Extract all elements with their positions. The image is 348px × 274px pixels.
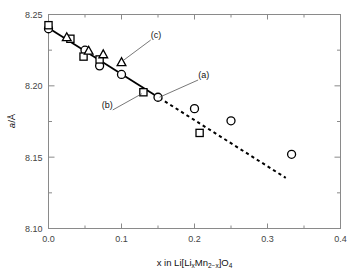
scatter-plot: 0.00.10.20.30.4 8.108.158.208.25 (a)(b)(…: [0, 0, 348, 274]
data-point-triangle: [117, 58, 126, 66]
data-point-circle: [118, 70, 126, 78]
data-point-circle: [191, 105, 199, 113]
plot-frame: [49, 15, 341, 229]
x-axis-ticks: [49, 15, 341, 229]
x-axis-title: x in Li[LixMn2−x]O4: [157, 257, 233, 269]
x-axis-tick-labels: 0.00.10.20.30.4: [42, 234, 347, 244]
annotation-label: (a): [198, 70, 209, 80]
annotation-leader-line: [159, 80, 198, 97]
x-axis-title-text: x in Li[LixMn2−x]O4: [157, 257, 233, 269]
y-tick-label: 8.20: [25, 81, 43, 91]
y-tick-label: 8.10: [25, 224, 43, 234]
x-tick-label: 0.4: [334, 234, 347, 244]
data-point-square: [45, 22, 52, 29]
data-point-square: [140, 89, 147, 96]
y-axis-title: a/Å: [6, 113, 17, 128]
data-markers: [45, 22, 296, 159]
x-tick-label: 0.0: [42, 234, 55, 244]
data-point-triangle: [99, 50, 108, 58]
annotation-leader-line: [124, 40, 151, 60]
y-axis-ticks: [49, 15, 341, 229]
y-axis-tick-labels: 8.108.158.208.25: [25, 10, 43, 234]
x-tick-label: 0.3: [261, 234, 274, 244]
data-point-circle: [227, 117, 235, 125]
data-point-square: [196, 129, 203, 136]
x-tick-label: 0.1: [115, 234, 128, 244]
figure-container: 0.00.10.20.30.4 8.108.158.208.25 (a)(b)(…: [0, 0, 348, 274]
y-tick-label: 8.15: [25, 153, 43, 163]
annotation-label: (c): [151, 30, 162, 40]
data-point-circle: [288, 150, 296, 158]
annotation-label: (b): [102, 100, 113, 110]
axes-frame: [49, 15, 341, 229]
y-axis-title-text: a/Å: [6, 113, 17, 128]
dashed-extrapolation: [159, 98, 285, 178]
y-tick-label: 8.25: [25, 10, 43, 20]
annotation-leader-line: [113, 94, 142, 110]
data-point-circle: [154, 93, 162, 101]
x-tick-label: 0.2: [188, 234, 201, 244]
